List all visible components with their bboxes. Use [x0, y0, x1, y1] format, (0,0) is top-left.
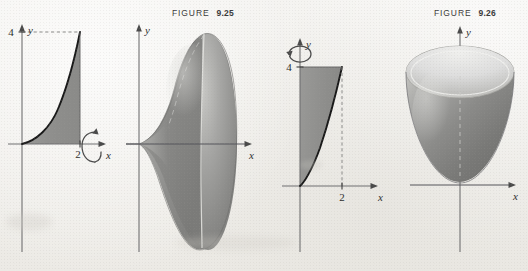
figure-caption-9-25: FIGURE9.25: [172, 8, 234, 18]
panel-solid-3d-926: y x: [396, 20, 528, 265]
rotation-arrow-about-x-axis: [82, 128, 101, 162]
x-axis-arrowhead: [509, 182, 517, 188]
shaded-region-under-curve: [22, 32, 80, 144]
x-tick-label-2: 2: [75, 148, 81, 160]
y-axis-arrowhead: [457, 26, 463, 34]
y-tick-label-4: 4: [8, 26, 14, 38]
figure-caption-number: 9.25: [217, 8, 234, 18]
x-axis-label: x: [105, 149, 111, 161]
panel-solid-3d-925: y x: [118, 20, 263, 265]
figure-caption-word: FIGURE: [172, 8, 210, 18]
shaded-region-left-of-curve: [300, 67, 342, 186]
x-tick-label-2: 2: [339, 191, 345, 203]
x-axis-arrowhead: [99, 141, 107, 147]
figure-caption-9-26: FIGURE9.26: [434, 8, 496, 18]
y-axis-label: y: [144, 24, 150, 36]
paraboloid-sheen: [412, 72, 460, 160]
horn-sheen: [166, 44, 218, 140]
x-axis-arrowhead: [371, 183, 379, 189]
y-axis-arrowhead: [136, 24, 142, 32]
y-axis-label: y: [465, 26, 471, 38]
y-axis-label: y: [27, 24, 33, 36]
figure-caption-number: 9.26: [479, 8, 496, 18]
y-axis-label: y: [305, 38, 311, 50]
panel-region-2d-926: y x 4 2: [272, 20, 392, 265]
x-axis-label: x: [512, 190, 518, 202]
y-tick-label-4: 4: [286, 61, 292, 73]
x-axis-label: x: [248, 149, 254, 161]
x-axis-label: x: [377, 191, 383, 203]
x-axis-arrowhead: [245, 141, 253, 147]
figure-caption-word: FIGURE: [434, 8, 472, 18]
panel-region-2d-925: y x 4 2: [0, 20, 120, 265]
y-axis-arrowhead: [297, 38, 303, 46]
y-axis-arrowhead: [19, 24, 25, 32]
